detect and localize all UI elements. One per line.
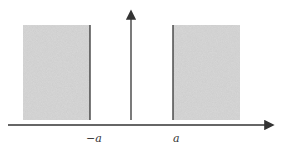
label-minus-a: −a [86,132,102,145]
well-diagram: −a a [0,0,286,156]
right-shaded-texture [173,25,240,120]
label-a: a [173,132,180,145]
left-shaded-texture [23,25,90,120]
